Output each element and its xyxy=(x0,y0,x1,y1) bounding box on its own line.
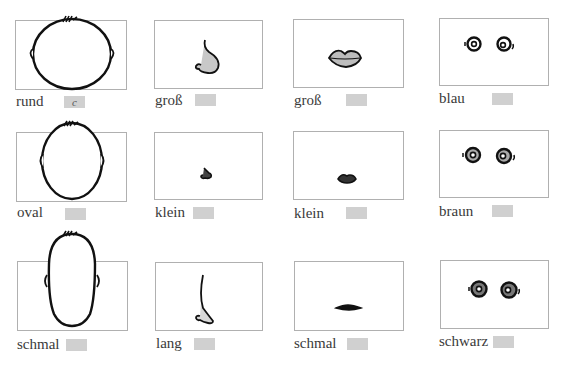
answer-field[interactable] xyxy=(66,339,87,351)
option-label: schwarz xyxy=(439,334,488,349)
black-eyes-icon xyxy=(0,0,564,340)
answer-field[interactable] xyxy=(493,336,514,348)
